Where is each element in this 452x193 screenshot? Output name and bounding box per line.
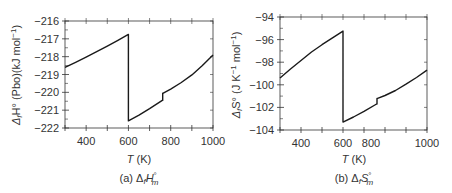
y-tick-label: −94: [255, 11, 274, 23]
y-axis-title-b: ΔfS° (J K−1 mol−1): [229, 32, 244, 120]
data-line-a: [65, 34, 213, 121]
x-axis-ticks-b: 4006008001000: [280, 14, 439, 149]
y-tick-label: −222: [34, 122, 59, 134]
y-tick-label: −96: [255, 34, 274, 46]
x-tick-label: 600: [334, 137, 352, 149]
x-axis-title-a: T (K): [127, 153, 151, 165]
x-tick-label: 400: [292, 137, 310, 149]
y-tick-label: −98: [255, 56, 274, 68]
figure: −222−221−220−219−218−217−216 40060080010…: [0, 0, 452, 193]
y-tick-label: −220: [34, 86, 59, 98]
data-line-b: [280, 31, 427, 122]
x-tick-label: 600: [119, 135, 137, 147]
x-tick-label: 400: [77, 135, 95, 147]
y-tick-label: −221: [34, 104, 59, 116]
y-tick-label: −102: [249, 101, 274, 113]
y-tick-label: −104: [249, 124, 274, 136]
y-tick-label: −216: [34, 15, 59, 27]
caption-b: (b) ΔfS°m: [335, 171, 374, 187]
chart-panel-a: −222−221−220−219−218−217−216 40060080010…: [9, 15, 225, 187]
y-tick-label: −218: [34, 51, 59, 63]
x-tick-label: 1000: [415, 137, 439, 149]
x-tick-label: 800: [362, 137, 380, 149]
y-axis-title-a: ΔfH° (Pbo)(kJ mol−1): [9, 25, 24, 126]
caption-a: (a) ΔfH°m: [120, 171, 159, 187]
y-tick-label: −217: [34, 33, 59, 45]
x-tick-label: 800: [162, 135, 180, 147]
y-axis-ticks-a: −222−221−220−219−218−217−216: [34, 15, 213, 134]
y-tick-label: −219: [34, 69, 59, 81]
plot-frame-a: [65, 21, 213, 128]
x-tick-label: 1000: [201, 135, 225, 147]
chart-panel-b: −104−102−100−98−96−94 4006008001000 ΔfS°…: [229, 11, 439, 187]
y-tick-label: −100: [249, 79, 274, 91]
x-axis-title-b: T (K): [342, 153, 366, 165]
plot-frame-b: [280, 17, 427, 130]
y-axis-ticks-b: −104−102−100−98−96−94: [249, 11, 427, 136]
